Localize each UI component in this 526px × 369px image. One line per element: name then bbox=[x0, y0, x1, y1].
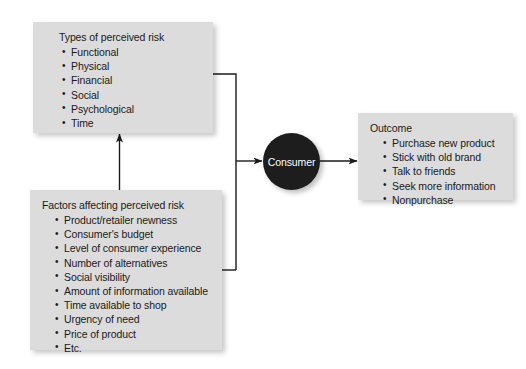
list-item: Nonpurchase bbox=[392, 193, 503, 207]
box-factors-affecting-perceived-risk: Factors affecting perceived risk Product… bbox=[30, 190, 222, 350]
list-item: Urgency of need bbox=[64, 312, 212, 326]
box-outcome: Outcome Purchase new product Stick with … bbox=[358, 113, 513, 200]
list-item: Social bbox=[71, 88, 203, 102]
list-item: Level of consumer experience bbox=[64, 241, 212, 255]
list-item: Psychological bbox=[71, 102, 203, 116]
box-types-bullet-list: Functional Physical Financial Social Psy… bbox=[45, 45, 203, 130]
list-item: Time bbox=[71, 116, 203, 130]
box-outcome-title: Outcome bbox=[370, 121, 503, 135]
list-item: Financial bbox=[71, 73, 203, 87]
box-types-title: Types of perceived risk bbox=[59, 30, 203, 44]
list-item: Consumer's budget bbox=[64, 227, 212, 241]
list-item: Price of product bbox=[64, 327, 212, 341]
list-item: Stick with old brand bbox=[392, 150, 503, 164]
list-item: Purchase new product bbox=[392, 136, 503, 150]
list-item: Social visibility bbox=[64, 270, 212, 284]
list-item: Talk to friends bbox=[392, 164, 503, 178]
list-item: Functional bbox=[71, 45, 203, 59]
box-outcome-bullet-list: Purchase new product Stick with old bran… bbox=[370, 136, 503, 207]
list-item: Seek more information bbox=[392, 179, 503, 193]
consumer-node-label: Consumer bbox=[268, 156, 316, 168]
list-item: Number of alternatives bbox=[64, 256, 212, 270]
diagram-canvas: Types of perceived risk Functional Physi… bbox=[0, 0, 526, 369]
box-types-of-perceived-risk: Types of perceived risk Functional Physi… bbox=[33, 22, 213, 133]
consumer-node: Consumer bbox=[263, 133, 320, 190]
list-item: Etc. bbox=[64, 341, 212, 355]
list-item: Time available to shop bbox=[64, 298, 212, 312]
list-item: Product/retailer newness bbox=[64, 213, 212, 227]
list-item: Physical bbox=[71, 59, 203, 73]
box-factors-title: Factors affecting perceived risk bbox=[42, 198, 212, 212]
box-factors-bullet-list: Product/retailer newness Consumer's budg… bbox=[42, 213, 212, 355]
list-item: Amount of information available bbox=[64, 284, 212, 298]
